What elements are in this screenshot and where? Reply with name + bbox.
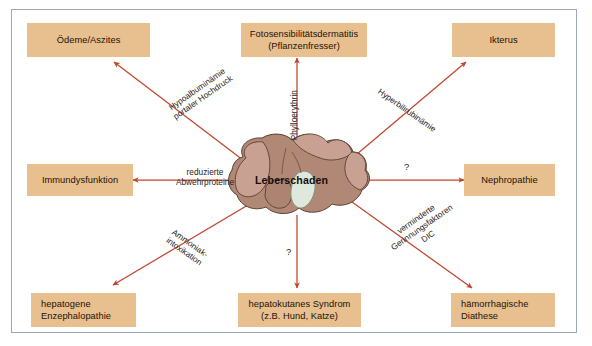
node-hepatogene-enzephalopathie[interactable]: hepatogene Enzephalopathie	[31, 293, 136, 327]
node-nephro-line-1: Nephropathie	[481, 174, 537, 187]
node-fotosensibilitaetsdermatitis[interactable]: Fotosensibilitätsdermatitis (Pflanzenfre…	[241, 23, 367, 57]
edge-label-to-fotosens-line-1: Phylloerythrin	[289, 77, 299, 153]
node-fotosens-line-2: (Pflanzenfresser)	[268, 40, 340, 53]
node-immun-line-1: Immundysfunktion	[42, 174, 118, 187]
center-label: Leberschaden	[255, 174, 328, 186]
node-enzephalo-line-1: hepatogene	[41, 298, 91, 311]
node-enzephalo-line-2: Enzephalopathie	[41, 310, 111, 323]
node-ikterus-line-1: Ikterus	[489, 34, 517, 47]
edge-label-to-immun-line-1: reduzierte	[155, 167, 255, 177]
diagram-figure: Leberschaden Ödeme/Aszites Fotosensibili…	[0, 0, 592, 346]
edge-label-to-hepatokutan: ?	[286, 246, 291, 257]
node-hepatokutan-line-2: (z.B. Hund, Katze)	[261, 310, 338, 323]
edge-label-to-immun: reduzierte Abwehrproteine	[155, 167, 255, 188]
node-oedeme-line-1: Ödeme/Aszites	[57, 34, 121, 47]
node-fotosens-line-1: Fotosensibilitätsdermatitis	[250, 28, 358, 41]
node-ikterus[interactable]: Ikterus	[452, 23, 555, 57]
node-diathese-line-2: Diathese	[461, 310, 498, 323]
node-hepatokutan-line-1: hepatokutanes Syndrom	[249, 298, 351, 311]
node-oedeme[interactable]: Ödeme/Aszites	[27, 23, 150, 57]
node-haemorrhagische-diathese[interactable]: hämorrhagische Diathese	[451, 293, 555, 327]
edge-label-to-nephro: ?	[404, 161, 409, 172]
edge-label-to-immun-line-2: Abwehrproteine	[155, 177, 255, 187]
node-nephropathie[interactable]: Nephropathie	[464, 164, 555, 196]
node-diathese-line-1: hämorrhagische	[461, 298, 528, 311]
node-immundysfunktion[interactable]: Immundysfunktion	[27, 164, 133, 196]
edge-label-to-fotosens: Phylloerythrin	[289, 77, 299, 153]
node-hepatokutanes-syndrom[interactable]: hepatokutanes Syndrom (z.B. Hund, Katze)	[238, 293, 361, 327]
